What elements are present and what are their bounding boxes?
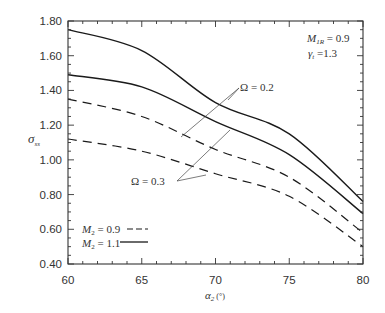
legend: M2 = 0.9 M2 = 1.1 — [81, 223, 148, 251]
y-tick-label: 0.40 — [40, 258, 62, 270]
y-tick-label: 1.40 — [40, 84, 62, 96]
x-axis-label: α2 (°) — [205, 289, 225, 303]
omega-02-label: Ω = 0.2 — [240, 81, 274, 93]
x-tick-label: 80 — [357, 274, 370, 286]
legend-label-m2-11: M2 = 1.1 — [81, 237, 120, 251]
series-line-3 — [68, 99, 363, 233]
chart: 60657075800.400.600.801.001.201.401.601.… — [0, 0, 385, 313]
param-m1r: M1R = 0.9 — [306, 32, 350, 46]
plot-lines — [68, 30, 363, 247]
omega-03-label: Ω = 0.3 — [131, 175, 165, 187]
y-axis-label: σss — [28, 131, 40, 148]
x-tick-label: 75 — [283, 274, 296, 286]
omega-02-leader-dashed — [181, 88, 239, 137]
y-tick-label: 0.60 — [40, 223, 62, 235]
x-tick-label: 70 — [209, 274, 222, 286]
omega-03-leader-dashed — [177, 175, 206, 181]
omega-leader-lines — [177, 88, 239, 181]
x-tick-label: 65 — [135, 274, 148, 286]
x-tick-label: 60 — [62, 274, 75, 286]
y-tick-label: 1.80 — [40, 15, 62, 27]
param-gamma: γt =1.3 — [308, 47, 338, 61]
y-tick-label: 1.00 — [40, 154, 62, 166]
y-tick-label: 1.60 — [40, 50, 62, 62]
y-tick-label: 1.20 — [40, 119, 62, 131]
y-tick-label: 0.80 — [40, 189, 62, 201]
omega-03-leader-solid — [177, 130, 230, 181]
legend-label-m2-09: M2 = 0.9 — [81, 223, 121, 237]
